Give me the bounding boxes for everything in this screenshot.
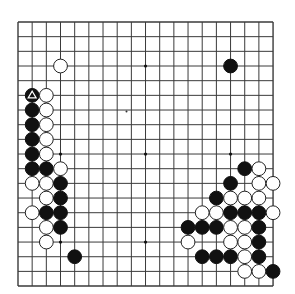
white-stone [25, 176, 39, 190]
white-stone [238, 191, 252, 205]
black-stone [54, 206, 68, 220]
star-point [229, 152, 232, 155]
black-stone [195, 220, 209, 234]
white-stone [54, 59, 68, 73]
white-stone [224, 235, 238, 249]
black-stone [25, 118, 39, 132]
white-stone [238, 264, 252, 278]
black-stone [25, 103, 39, 117]
black-stone [266, 264, 280, 278]
white-stone [25, 206, 39, 220]
black-stone [181, 220, 195, 234]
white-stone [209, 206, 223, 220]
white-stone [224, 220, 238, 234]
white-stone [238, 250, 252, 264]
white-stone [238, 235, 252, 249]
black-stone [209, 250, 223, 264]
black-stone [252, 206, 266, 220]
black-stone [25, 162, 39, 176]
white-stone [39, 132, 53, 146]
white-stone [39, 118, 53, 132]
black-stone [238, 206, 252, 220]
white-stone [39, 88, 53, 102]
black-stone [224, 176, 238, 190]
black-stone [224, 250, 238, 264]
white-stone [266, 176, 280, 190]
white-stone [238, 220, 252, 234]
black-stone [25, 147, 39, 161]
white-stone [39, 220, 53, 234]
black-stone [209, 191, 223, 205]
black-stone [54, 176, 68, 190]
white-stone [39, 235, 53, 249]
white-stone [252, 191, 266, 205]
white-stone [266, 206, 280, 220]
star-point [144, 64, 147, 67]
white-stone [252, 176, 266, 190]
black-stone [39, 162, 53, 176]
black-stone [25, 132, 39, 146]
white-stone [252, 162, 266, 176]
black-stone [238, 162, 252, 176]
white-stone [195, 206, 209, 220]
board-mark [126, 111, 128, 113]
white-stone [252, 264, 266, 278]
white-stone [39, 103, 53, 117]
black-stone [224, 206, 238, 220]
star-point [59, 240, 62, 243]
black-stone [54, 220, 68, 234]
star-point [144, 152, 147, 155]
black-stone [209, 220, 223, 234]
black-stone [39, 206, 53, 220]
white-stone [54, 162, 68, 176]
star-point [59, 152, 62, 155]
black-stone [252, 220, 266, 234]
go-board[interactable] [0, 0, 295, 294]
black-stone [252, 250, 266, 264]
white-stone [39, 147, 53, 161]
white-stone [39, 176, 53, 190]
white-stone [224, 191, 238, 205]
go-board-canvas[interactable] [0, 0, 295, 294]
black-stone [195, 250, 209, 264]
white-stone [39, 191, 53, 205]
black-stone [252, 235, 266, 249]
black-stone [68, 250, 82, 264]
white-stone [181, 235, 195, 249]
black-stone [224, 59, 238, 73]
star-point [144, 240, 147, 243]
black-stone [54, 191, 68, 205]
